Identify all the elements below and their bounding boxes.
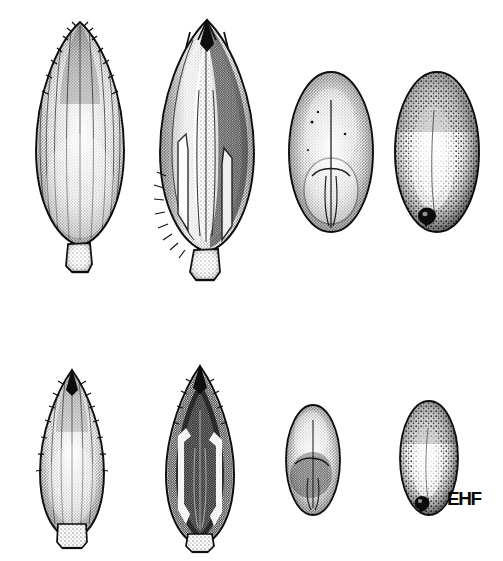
artist-signature: EHF <box>447 489 481 508</box>
specimen-top-caryopsis-ventral <box>289 72 373 232</box>
specimen-top-caryopsis-dorsal <box>395 72 479 232</box>
illustration-plate: EHF <box>0 0 503 561</box>
plate-artwork <box>0 0 503 561</box>
specimen-bottom-caryopsis-ventral <box>286 405 340 515</box>
